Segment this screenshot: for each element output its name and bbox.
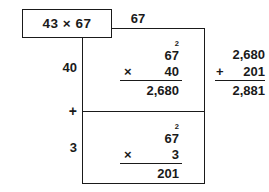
multiplication-sign: × bbox=[120, 64, 132, 80]
sum-addend-one: 2,680 bbox=[215, 46, 265, 63]
multiplicand: 67 bbox=[120, 131, 182, 147]
addition-sign: + bbox=[215, 63, 224, 80]
final-total: 2,881 bbox=[215, 81, 265, 99]
grid-left-label-3: 3 bbox=[51, 140, 77, 155]
partial-product-value: 2,680 bbox=[120, 81, 182, 99]
grid-top-label-67: 67 bbox=[118, 11, 158, 26]
multiplication-sign: × bbox=[120, 147, 132, 163]
area-model-multiplication-diagram: 43 × 67 67 40 + 3 2 67 × 40 2,680 2 67 ×… bbox=[0, 0, 269, 192]
multiplier-row: × 40 bbox=[120, 64, 182, 81]
multiplier-row: × 3 bbox=[120, 147, 182, 164]
multiplier: 40 bbox=[165, 64, 179, 80]
grid-row-divider bbox=[82, 111, 205, 112]
multiplicand: 67 bbox=[120, 48, 182, 64]
carry-digit: 2 bbox=[120, 123, 182, 131]
sum-addend-two: 201 bbox=[243, 63, 265, 80]
final-addition-column: 2,680 + 201 2,881 bbox=[215, 46, 265, 99]
tens-partial-product-block: 2 67 × 40 2,680 bbox=[120, 40, 182, 99]
sum-addend-two-row: + 201 bbox=[215, 63, 265, 81]
ones-partial-product-block: 2 67 × 3 201 bbox=[120, 123, 182, 182]
carry-digit: 2 bbox=[120, 40, 182, 48]
problem-expression: 43 × 67 bbox=[43, 16, 92, 31]
problem-callout-box: 43 × 67 bbox=[22, 9, 112, 38]
grid-left-label-40: 40 bbox=[51, 60, 77, 75]
multiplier: 3 bbox=[172, 147, 179, 163]
grid-left-plus-sign: + bbox=[51, 103, 77, 119]
partial-product-value: 201 bbox=[120, 164, 182, 182]
